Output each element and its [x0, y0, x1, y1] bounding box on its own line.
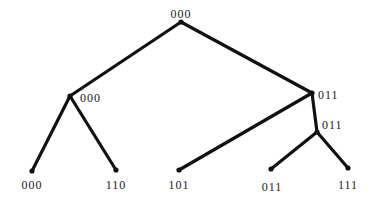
- node-label-leaf-111: 111: [338, 178, 358, 192]
- edge-root-to-right: [181, 22, 312, 93]
- node-label-leaf-000: 000: [22, 178, 43, 192]
- node-dot-right: [309, 90, 314, 95]
- node-label-leaf-011: 011: [262, 180, 283, 194]
- edge-left-to-leaf-000: [32, 96, 70, 171]
- node-dot-leaf-000: [29, 168, 34, 173]
- edge-right-to-leaf-101: [179, 93, 312, 170]
- node-dot-leaf-111: [345, 165, 350, 170]
- edge-right-right-to-leaf-011: [271, 132, 317, 169]
- node-dot-leaf-110: [113, 167, 118, 172]
- edge-left-to-leaf-110: [70, 96, 116, 170]
- node-dot-left: [67, 93, 72, 98]
- edge-right-right-to-leaf-111: [317, 132, 348, 168]
- edge-right-to-right-right: [312, 93, 317, 132]
- edge-root-to-left: [70, 22, 181, 96]
- binary-tree-diagram: 000000011011000110101011111: [0, 0, 377, 205]
- node-label-right: 011: [318, 88, 339, 102]
- node-dot-leaf-101: [176, 167, 181, 172]
- node-label-leaf-110: 110: [106, 178, 127, 192]
- node-label-root: 000: [171, 7, 192, 21]
- node-dot-right-right: [314, 129, 319, 134]
- node-label-leaf-101: 101: [169, 178, 190, 192]
- node-label-left: 000: [80, 91, 101, 105]
- node-label-right-right: 011: [322, 118, 343, 132]
- tree-node-dots: [29, 19, 350, 173]
- node-dot-leaf-011: [268, 166, 273, 171]
